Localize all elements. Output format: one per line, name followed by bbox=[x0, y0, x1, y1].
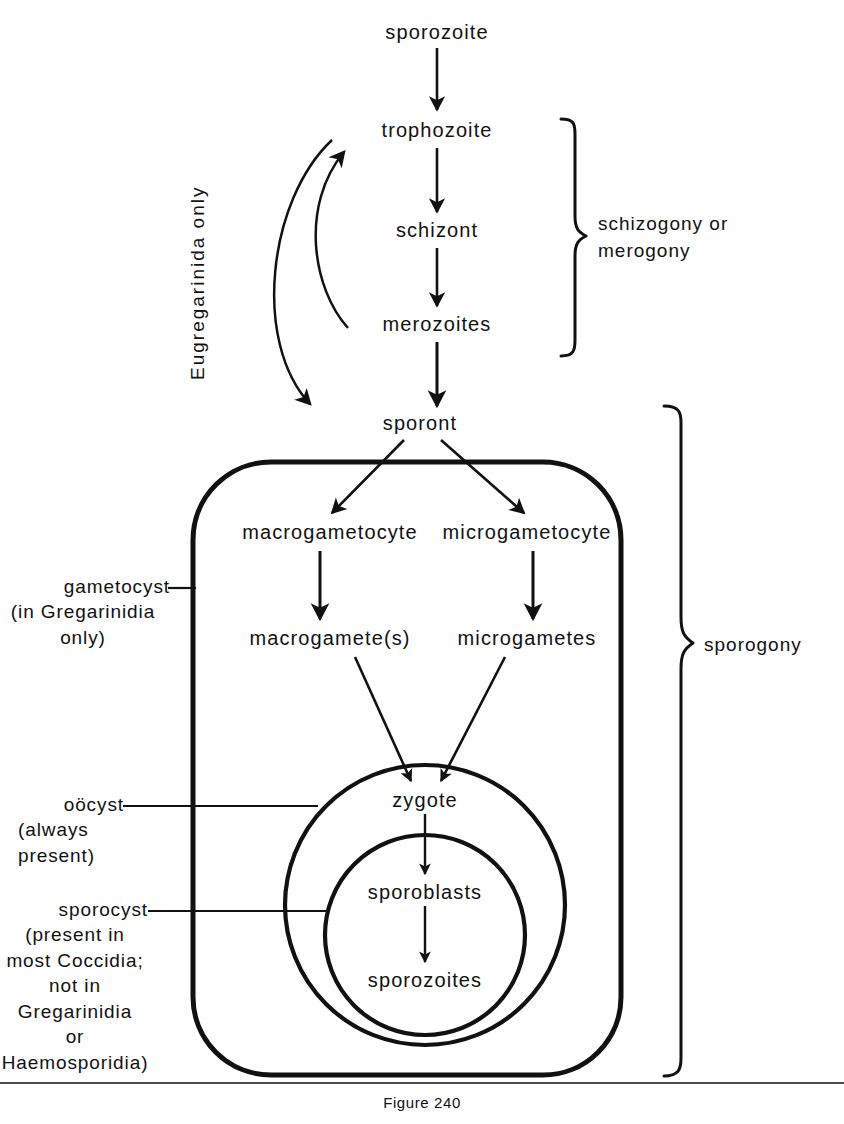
node-macrogametocyte: macrogametocyte bbox=[242, 520, 417, 546]
annotation-gametocyst-title: gametocyst bbox=[0, 574, 170, 599]
figure-caption: Figure 240 bbox=[0, 1094, 844, 1111]
node-microgametes: microgametes bbox=[458, 626, 597, 652]
arrow-macrogamete-to-zygote bbox=[355, 657, 411, 781]
schizogony-brace bbox=[561, 119, 586, 356]
node-sporont: sporont bbox=[383, 411, 457, 437]
curve-merozoites-to-trophozoite bbox=[316, 152, 348, 328]
node-macrogamete: macrogamete(s) bbox=[250, 626, 411, 652]
annotation-sporogony: sporogony bbox=[704, 632, 802, 659]
arrow-microgametes-to-zygote bbox=[441, 657, 505, 781]
annotation-oocyst: oöcyst (always present) bbox=[0, 792, 124, 868]
node-sporoblasts: sporoblasts bbox=[368, 880, 482, 906]
sporogony-brace bbox=[664, 406, 693, 1076]
annotation-eugregarinida-only: Eugregarinida only bbox=[187, 186, 209, 380]
curve-trophozoite-to-sporont bbox=[274, 140, 332, 404]
annotation-sporocyst-detail: (present in most Coccidia; not in Gregar… bbox=[0, 922, 164, 1075]
annotation-schizogony-or-merogony: schizogony or merogony bbox=[598, 211, 728, 264]
node-trophozoite: trophozoite bbox=[381, 118, 492, 144]
annotation-gametocyst: gametocyst (in Gregarinidia only) bbox=[0, 574, 170, 650]
annotation-oocyst-detail: (always present) bbox=[18, 817, 178, 868]
annotation-gametocyst-detail: (in Gregarinidia only) bbox=[0, 599, 172, 650]
arrow-sporont-to-macrogametocyte bbox=[332, 440, 404, 513]
node-sporozoite-top: sporozoite bbox=[385, 20, 488, 46]
node-merozoites: merozoites bbox=[383, 312, 492, 338]
node-sporozoites-inner: sporozoites bbox=[368, 968, 482, 994]
node-microgametocyte: microgametocyte bbox=[443, 520, 612, 546]
node-zygote: zygote bbox=[392, 788, 458, 814]
annotation-sporocyst-title: sporocyst bbox=[0, 897, 148, 922]
arrow-sporont-to-microgametocyte bbox=[441, 440, 524, 513]
figure-container: sporozoite trophozoite schizont merozoit… bbox=[0, 0, 844, 1124]
annotation-oocyst-title: oöcyst bbox=[0, 792, 124, 817]
annotation-sporocyst: sporocyst (present in most Coccidia; not… bbox=[0, 897, 148, 1075]
node-schizont: schizont bbox=[396, 218, 478, 244]
